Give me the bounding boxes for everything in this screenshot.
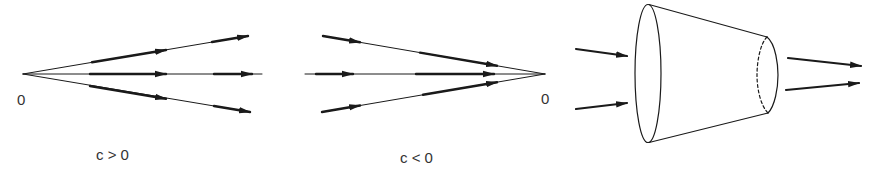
- origin-label-diverging: 0: [17, 92, 25, 107]
- origin-label-converging: 0: [541, 91, 549, 106]
- diagram-canvas: [0, 0, 879, 177]
- caption-converging: c < 0: [400, 150, 433, 165]
- caption-diverging: c > 0: [96, 147, 129, 162]
- diagram-figure: 0 c > 0 0 c < 0: [0, 0, 879, 177]
- panel-diverging: [23, 36, 262, 112]
- frustum-shape: [635, 5, 778, 143]
- panel-converging: [305, 36, 545, 112]
- frustum-narrow-end-front: [767, 37, 778, 113]
- frustum-narrow-end-back: [757, 37, 768, 113]
- frustum-wide-end: [635, 5, 661, 143]
- cone-outgoing-arrows: [786, 58, 861, 90]
- cone-incoming-arrows: [576, 49, 627, 109]
- panel-cone: [576, 5, 861, 143]
